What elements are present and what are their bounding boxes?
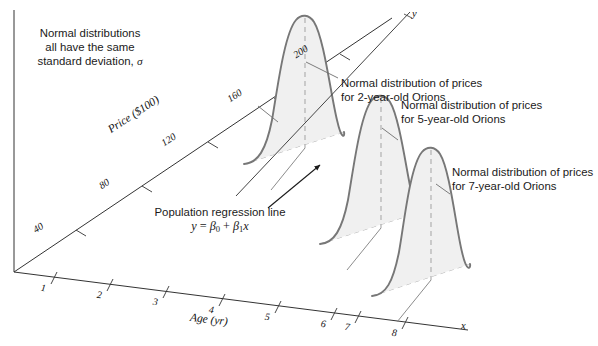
- distribution-note-age-5: Normal distribution of prices for 5-year…: [401, 98, 542, 126]
- standard-deviation-note: Normal distributions all have the same s…: [22, 26, 158, 69]
- dist7-line-2: for 7-year-old Orions: [452, 179, 593, 193]
- age-tick-4: [219, 294, 225, 306]
- dist2-line-1: Normal distribution of prices: [341, 76, 482, 90]
- sd-note-line-1: Normal distributions: [22, 26, 158, 40]
- age-tick-7: [355, 311, 361, 323]
- equation-x: x: [243, 219, 248, 233]
- dist5-line-1: Normal distribution of prices: [401, 98, 542, 112]
- equation-plus: +: [220, 219, 233, 233]
- regression-equation: y = β0 + β1x: [144, 219, 296, 237]
- distribution-note-age-7: Normal distribution of prices for 7-year…: [452, 165, 593, 193]
- distribution-curve-age-2: [244, 16, 344, 190]
- dist5-line-2: for 5-year-old Orions: [401, 112, 542, 126]
- dist7-line-1: Normal distribution of prices: [452, 165, 593, 179]
- age-tick-5: [275, 301, 281, 313]
- price-tick-120: [208, 142, 218, 148]
- sd-note-line-3: standard deviation, σ: [22, 54, 158, 68]
- sd-note-line-2: all have the same: [22, 40, 158, 54]
- sigma-symbol: σ: [137, 55, 143, 67]
- sd-note-line-3-text: standard deviation,: [37, 55, 136, 67]
- regression-note-label: Population regression line: [144, 205, 296, 219]
- age-tick-marks: [51, 272, 408, 329]
- age-tick-6: [331, 308, 337, 320]
- bell-curve-age-2-fill: [244, 16, 344, 164]
- price-tick-40: [76, 230, 86, 236]
- age-tick-8: [402, 317, 408, 329]
- age-tick-1: [51, 272, 57, 284]
- price-tick-80: [142, 186, 152, 192]
- regression-normal-distributions-figure: Normal distributions all have the same s…: [0, 0, 598, 346]
- regression-callout-arrow: [268, 165, 320, 208]
- equation-equals: =: [197, 219, 210, 233]
- curve-floor-leg-age-5: [347, 228, 381, 270]
- x-axis-end-label: x: [461, 320, 466, 331]
- price-tick-200: [340, 54, 350, 60]
- regression-line-note: Population regression line y = β0 + β1x: [144, 205, 296, 237]
- y-axis-end-label: y: [412, 8, 417, 19]
